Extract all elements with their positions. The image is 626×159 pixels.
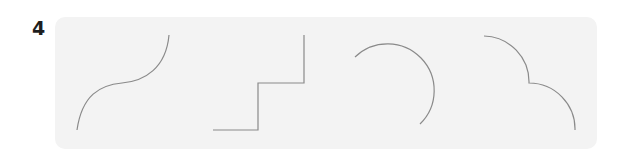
shapes-canvas <box>0 0 626 159</box>
s-curve-shape <box>77 35 169 130</box>
arc-shape <box>355 44 434 124</box>
staircase-shape <box>213 35 304 130</box>
double-arc-shape <box>484 36 575 130</box>
